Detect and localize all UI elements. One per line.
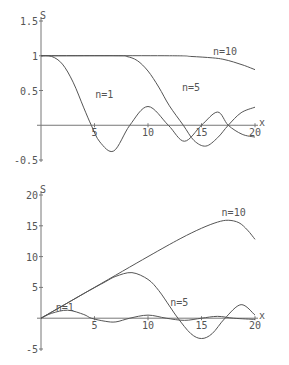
figure: 51015201.510.5-0.5Sxn=1n=5n=10 510152020…: [0, 0, 289, 365]
x-axis-label: x: [259, 310, 265, 321]
series-n-10: [41, 56, 255, 70]
x-axis-label: x: [259, 117, 265, 128]
x-tick-label: 10: [142, 127, 154, 138]
series-label: n=10: [222, 207, 246, 218]
y-axis-label: S: [40, 10, 46, 21]
series-label: n=1: [95, 89, 113, 100]
x-tick-label: 10: [142, 320, 154, 331]
y-tick-label: 15: [26, 221, 38, 232]
y-tick-label: -5: [26, 344, 38, 355]
y-tick-label: 1.5: [20, 16, 38, 27]
y-tick-label: 5: [32, 282, 38, 293]
x-tick-label: 15: [196, 127, 208, 138]
x-tick-label: 15: [196, 320, 208, 331]
y-tick-label: 1: [32, 51, 38, 62]
series-label: n=10: [213, 46, 237, 57]
x-tick-label: 20: [249, 320, 261, 331]
x-tick-label: 5: [92, 320, 98, 331]
y-tick-label: 20: [26, 190, 38, 201]
series-label: n=1: [56, 302, 74, 313]
bottom-chart: 51015202015105-5Sxn=1n=5n=10: [26, 184, 265, 355]
top-chart: 51015201.510.5-0.5Sxn=1n=5n=10: [14, 10, 265, 166]
y-tick-label: -0.5: [14, 155, 38, 166]
series-label: n=5: [182, 82, 200, 93]
y-tick-label: 0.5: [20, 86, 38, 97]
y-tick-label: 10: [26, 252, 38, 263]
y-axis-label: S: [40, 184, 46, 195]
series-label: n=5: [170, 297, 188, 308]
